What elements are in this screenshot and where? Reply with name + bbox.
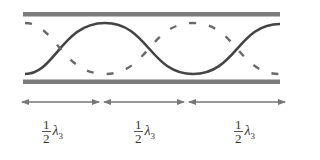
dashed-wave [25,23,280,74]
solid-wave [25,23,280,74]
segment-label-2: 12λ3 [134,118,155,145]
segment-label-3: 12λ3 [234,118,255,145]
bottom-wall [23,80,280,85]
segment-label-1: 12λ3 [42,118,63,145]
top-wall [23,12,280,17]
